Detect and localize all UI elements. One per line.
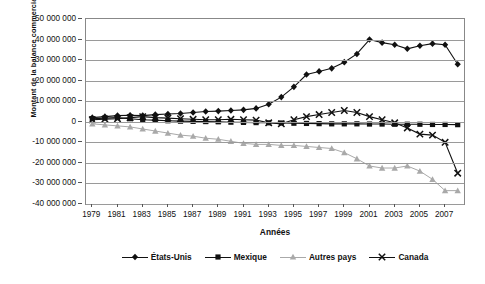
y-tick-mark xyxy=(78,80,82,81)
y-tick-label: 20 000 000 xyxy=(14,75,76,84)
y-tick-label: -30 000 000 xyxy=(14,178,76,187)
x-tick-label: 2005 xyxy=(410,210,428,219)
series-2 xyxy=(89,121,461,194)
y-tick-label: 10 000 000 xyxy=(14,96,76,105)
data-point xyxy=(215,108,221,115)
x-tick-label: 1995 xyxy=(284,210,302,219)
x-tick-label: 2003 xyxy=(385,210,403,219)
y-tick-label: 30 000 000 xyxy=(14,55,76,64)
y-axis-tick-labels: 50 000 00040 000 00030 000 00020 000 000… xyxy=(14,0,76,284)
data-point xyxy=(417,168,423,174)
legend-swatch xyxy=(122,252,148,262)
square-marker-icon xyxy=(205,252,213,260)
y-tick-label: 40 000 000 xyxy=(14,34,76,43)
plot-area xyxy=(85,18,465,205)
x-tick-mark xyxy=(419,204,420,207)
x-tick-label: 1997 xyxy=(309,210,327,219)
y-tick-mark xyxy=(78,18,82,19)
x-tick-mark xyxy=(117,204,118,207)
y-tick-mark xyxy=(78,203,82,204)
gridline xyxy=(86,81,464,82)
x-tick-label: 1987 xyxy=(183,210,201,219)
y-tick-label: 50 000 000 xyxy=(14,14,76,23)
gridline xyxy=(86,142,464,143)
x-tick-mark xyxy=(318,204,319,207)
x-tick-label: 2001 xyxy=(359,210,377,219)
legend-swatch xyxy=(280,252,306,262)
y-tick-label: -20 000 000 xyxy=(14,157,76,166)
legend-item-0[interactable]: États-Unis xyxy=(122,252,192,262)
x-tick-label: 1981 xyxy=(107,210,125,219)
gridline xyxy=(86,40,464,41)
x-tick-label: 1989 xyxy=(208,210,226,219)
x-tick-mark xyxy=(293,204,294,207)
x-tick-label: 1985 xyxy=(158,210,176,219)
y-tick-mark xyxy=(78,141,82,142)
y-tick-mark xyxy=(78,182,82,183)
x-tick-mark xyxy=(167,204,168,207)
legend-label: Canada xyxy=(398,252,428,262)
x-tick-label: 1993 xyxy=(259,210,277,219)
gridline xyxy=(86,122,464,123)
x-tick-mark xyxy=(369,204,370,207)
data-point xyxy=(417,42,423,49)
legend-item-2[interactable]: Autres pays xyxy=(280,252,357,262)
gridline xyxy=(86,204,464,205)
x-tick-mark xyxy=(142,204,143,207)
legend-item-1[interactable]: Mexique xyxy=(205,252,267,262)
legend-label: Mexique xyxy=(234,252,267,262)
series-0 xyxy=(89,36,461,121)
data-point xyxy=(404,46,410,53)
data-point xyxy=(228,107,234,114)
triangle-marker-icon xyxy=(280,252,288,260)
y-tick-label: -10 000 000 xyxy=(14,137,76,146)
data-point xyxy=(203,108,209,115)
data-point xyxy=(429,40,435,47)
x-tick-label: 2007 xyxy=(435,210,453,219)
x-tick-mark xyxy=(243,204,244,207)
data-point xyxy=(329,65,335,72)
x-axis-tick-labels: 1979198119831985198719891991199319951997… xyxy=(85,207,465,223)
cross-marker-icon xyxy=(369,252,377,260)
legend-label: États-Unis xyxy=(151,252,192,262)
data-point xyxy=(354,156,360,162)
data-point xyxy=(442,41,448,48)
y-tick-label: -40 000 000 xyxy=(14,199,76,208)
y-tick-label: 0 xyxy=(14,116,76,125)
series-line xyxy=(92,124,457,191)
gridline xyxy=(86,101,464,102)
gridline xyxy=(86,163,464,164)
y-tick-mark xyxy=(78,59,82,60)
legend-swatch xyxy=(205,252,231,262)
legend-item-3[interactable]: Canada xyxy=(369,252,428,262)
series-layer xyxy=(86,19,464,204)
gridline xyxy=(86,183,464,184)
data-point xyxy=(455,170,461,176)
data-point xyxy=(429,176,435,182)
y-tick-mark xyxy=(78,39,82,40)
x-tick-label: 1983 xyxy=(133,210,151,219)
data-point xyxy=(316,68,322,75)
data-point xyxy=(455,122,460,127)
x-tick-mark xyxy=(394,204,395,207)
x-axis-title: Années xyxy=(85,227,465,237)
chart-figure: Montant de la balance commerciale 50 000… xyxy=(0,0,485,284)
data-point xyxy=(455,61,461,68)
gridline xyxy=(86,60,464,61)
data-point xyxy=(392,41,398,48)
diamond-marker-icon xyxy=(122,252,130,260)
x-tick-label: 1979 xyxy=(82,210,100,219)
series-line xyxy=(92,40,457,118)
data-point xyxy=(240,107,246,114)
x-tick-mark xyxy=(217,204,218,207)
x-tick-mark xyxy=(444,204,445,207)
x-tick-mark xyxy=(192,204,193,207)
x-tick-label: 1991 xyxy=(233,210,251,219)
legend-swatch xyxy=(369,252,395,262)
data-point xyxy=(253,105,259,112)
y-tick-mark xyxy=(78,162,82,163)
chart-legend: États-UnisMexiqueAutres paysCanada xyxy=(85,252,465,262)
x-tick-mark xyxy=(268,204,269,207)
legend-label: Autres pays xyxy=(309,252,357,262)
y-tick-mark xyxy=(78,100,82,101)
